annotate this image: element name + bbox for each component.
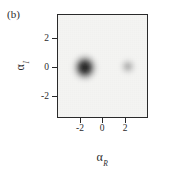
y-tick-mark-0 <box>52 67 57 68</box>
y-tick-label-neg2: -2 <box>41 91 49 101</box>
panel-label: (b) <box>7 8 20 20</box>
phase-space-heatmap <box>58 15 147 117</box>
plot-frame <box>57 14 148 118</box>
x-axis-label-subscript: R <box>103 159 108 168</box>
x-axis-label-symbol: α <box>97 150 103 164</box>
secondary-lobe <box>116 54 140 79</box>
y-tick-mark-neg2 <box>52 96 57 97</box>
x-axis-label: αR <box>97 150 108 166</box>
x-tick-label-neg2: -2 <box>76 123 84 133</box>
y-axis-label-subscript: I <box>22 61 31 64</box>
x-tick-label-2: 2 <box>123 123 128 133</box>
y-tick-mark-2 <box>52 38 57 39</box>
y-tick-label-0: 0 <box>44 62 49 72</box>
y-tick-label-2: 2 <box>44 33 49 43</box>
y-axis-label: αI <box>13 62 29 71</box>
figure-panel-b: (b) <box>0 0 170 172</box>
primary-lobe <box>68 49 102 85</box>
y-axis-label-symbol: α <box>13 64 27 70</box>
x-tick-label-0: 0 <box>100 123 105 133</box>
